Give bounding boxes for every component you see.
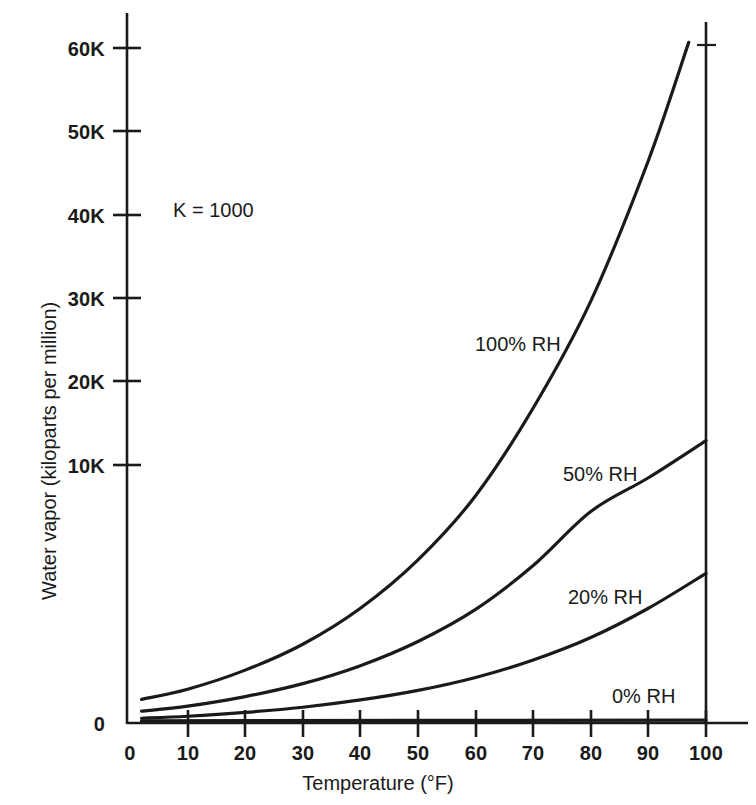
series-curves bbox=[142, 42, 706, 720]
series-curve-0rh bbox=[142, 720, 706, 721]
y-tick-label: 50K bbox=[20, 121, 105, 144]
series-label-50rh: 50% RH bbox=[563, 463, 637, 486]
x-tick-label: 40 bbox=[330, 742, 390, 765]
x-tick-label: 30 bbox=[273, 742, 333, 765]
x-tick-label: 60 bbox=[446, 742, 506, 765]
x-tick-label: 80 bbox=[561, 742, 621, 765]
y-tick-label: 40K bbox=[20, 205, 105, 228]
y-axis-title: Water vapor (kiloparts per million) bbox=[38, 302, 61, 600]
series-label-100rh: 100% RH bbox=[475, 333, 561, 356]
y-tick-label: 30K bbox=[20, 288, 105, 311]
y-tick-label: 10K bbox=[20, 455, 105, 478]
y-tick-label: 20K bbox=[20, 371, 105, 394]
series-label-20rh: 20% RH bbox=[568, 586, 642, 609]
x-tick-label: 20 bbox=[215, 742, 275, 765]
x-tick-label: 0 bbox=[100, 742, 160, 765]
y-tick-label: 60K bbox=[20, 38, 105, 61]
x-tick-label: 10 bbox=[158, 742, 218, 765]
x-tick-label: 90 bbox=[618, 742, 678, 765]
x-tick-label: 50 bbox=[388, 742, 448, 765]
y-tick-label: 0 bbox=[20, 713, 105, 736]
chart-figure: 60K50K40K30K20K10K0 01020304050607080901… bbox=[0, 0, 756, 805]
x-tick-label: 70 bbox=[503, 742, 563, 765]
x-tick-label: 100 bbox=[676, 742, 736, 765]
k-equals-1000-note: K = 1000 bbox=[173, 199, 254, 222]
series-label-0rh: 0% RH bbox=[612, 685, 675, 708]
x-axis-title: Temperature (°F) bbox=[0, 772, 756, 795]
